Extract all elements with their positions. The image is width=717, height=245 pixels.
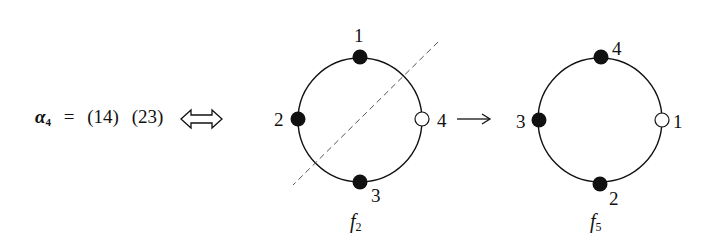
- node-4-open: [415, 112, 429, 126]
- caption-f2: f2: [350, 210, 362, 234]
- diagram-f5: 4 3 2 1 f5: [516, 38, 683, 234]
- node-2-filled: [593, 177, 608, 192]
- right-arrow-icon: [457, 114, 490, 124]
- label-node-2: 2: [274, 109, 284, 130]
- node-4-filled: [594, 50, 609, 65]
- diagram-canvas: 1 2 3 4 f2 4 3 2 1 f5: [0, 0, 717, 245]
- node-3-filled: [532, 113, 547, 128]
- label-node-3: 3: [371, 185, 381, 206]
- diagram-f2: 1 2 3 4 f2: [274, 25, 447, 234]
- label-node-4: 4: [612, 38, 622, 59]
- label-node-4: 4: [437, 110, 447, 131]
- cycle-circle: [538, 58, 662, 182]
- node-2-filled: [291, 112, 306, 127]
- label-node-2: 2: [609, 188, 619, 209]
- label-node-1: 1: [673, 111, 683, 132]
- double-arrow-icon: [181, 110, 222, 128]
- cycle-circle: [298, 58, 422, 182]
- label-node-3: 3: [516, 111, 526, 132]
- reflection-axis: [293, 42, 438, 185]
- label-node-1: 1: [354, 25, 364, 46]
- node-3-filled: [353, 175, 368, 190]
- node-1-filled: [353, 50, 368, 65]
- caption-f5: f5: [590, 210, 602, 234]
- node-1-open: [655, 113, 669, 127]
